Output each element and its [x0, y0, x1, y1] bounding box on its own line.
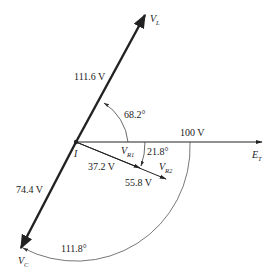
- vr1-magnitude-label: 37.2 V: [88, 161, 116, 172]
- origin-point: [74, 140, 78, 144]
- vl-magnitude-label: 111.6 V: [74, 71, 106, 82]
- phasor-diagram-canvas: VL 111.6 V 68.2° 100 V ET I VR1 21.8° 37…: [0, 0, 279, 274]
- et-label: ET: [251, 149, 262, 162]
- vr-angle-label: 21.8°: [147, 146, 169, 157]
- origin-label-i: I: [73, 148, 78, 159]
- angle-arc-vc: [23, 142, 190, 261]
- vc-phasor-line: [21, 142, 76, 248]
- vr2-magnitude-label: 55.8 V: [125, 177, 153, 188]
- vc-angle-label: 111.8°: [61, 243, 87, 254]
- angle-arc-vr: [141, 142, 145, 166]
- phasor-diagram: VL 111.6 V 68.2° 100 V ET I VR1 21.8° 37…: [0, 0, 279, 274]
- vl-angle-label: 68.2°: [124, 109, 146, 120]
- vr2-label: VR2: [159, 161, 173, 174]
- vc-magnitude-label: 74.4 V: [16, 184, 44, 195]
- vr1-label: VR1: [121, 145, 134, 158]
- vc-label: VC: [18, 255, 29, 268]
- et-magnitude-label: 100 V: [180, 127, 205, 138]
- vl-label: VL: [150, 13, 160, 26]
